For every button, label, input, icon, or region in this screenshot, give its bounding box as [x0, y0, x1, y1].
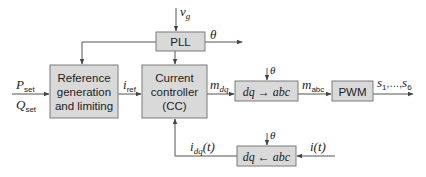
theta-dq-abc-label: θ [270, 64, 276, 76]
i-ref-label: iref [123, 77, 137, 94]
cc-label-line3: (CC) [162, 100, 186, 112]
abc-to-dq-label: dq ← abc [243, 150, 291, 164]
i-t-label: i(t) [310, 139, 326, 154]
pll-label: PLL [170, 36, 191, 48]
q-set-label: Qset [16, 97, 37, 114]
abc-to-dq-block: dq ← abc [237, 146, 296, 166]
theta-abc-dq-label: θ [270, 129, 276, 141]
reference-generation-block: Reference generation and limiting [50, 65, 118, 118]
cc-label-line1: Current [155, 72, 194, 84]
p-set-label: Pset [15, 77, 35, 94]
pwm-label: PWM [338, 86, 366, 98]
theta-pll-label: θ [210, 27, 217, 42]
control-block-diagram: PLL Reference generation and limiting Cu… [0, 0, 426, 177]
cc-label-line2: controller [151, 86, 198, 98]
current-controller-block: Current controller (CC) [142, 65, 207, 118]
pll-block: PLL [156, 32, 205, 51]
m-abc-label: mabc [302, 77, 324, 94]
reference-label-line3: and limiting [55, 100, 113, 112]
dq-to-abc-block: dq → abc [235, 81, 298, 101]
reference-label-line1: Reference [57, 72, 110, 84]
switches-label: s1,…,s6 [377, 75, 412, 92]
vg-label: vg [180, 4, 191, 21]
m-dq-label: mdq [210, 77, 229, 94]
reference-label-line2: generation [57, 86, 111, 98]
dq-to-abc-label: dq → abc [243, 85, 291, 99]
pwm-block: PWM [332, 81, 373, 101]
pll-to-reference-wire [82, 42, 156, 64]
i-dq-t-label: idq(t) [190, 139, 215, 156]
